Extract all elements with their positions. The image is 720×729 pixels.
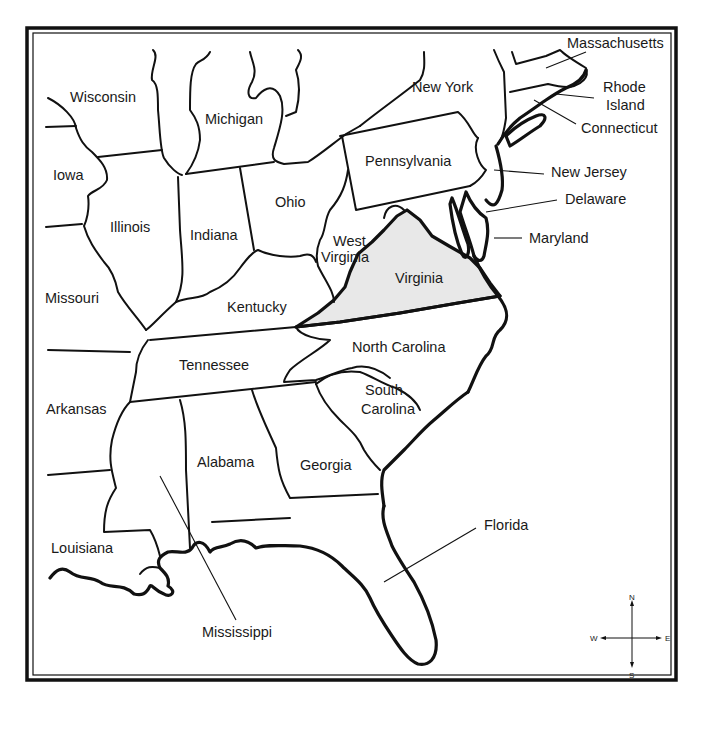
leader-connecticut: [534, 100, 576, 124]
border-pa-nj: [470, 138, 486, 186]
river-tn-ar: [130, 340, 148, 402]
border-al-ga: [252, 390, 378, 498]
state-virginia-shape[interactable]: [296, 210, 500, 327]
label-new-jersey: New Jersey: [551, 164, 627, 180]
label-new-york: New York: [412, 79, 474, 95]
label-kentucky: Kentucky: [227, 299, 287, 315]
label-illinois: Illinois: [110, 219, 150, 235]
delmarva-peninsula: [460, 192, 488, 261]
label-arkansas: Arkansas: [46, 401, 106, 417]
label-delaware: Delaware: [565, 191, 626, 207]
border-mo-ar: [48, 350, 130, 352]
border-ky-tn: [150, 327, 296, 340]
border-tn-south: [130, 382, 316, 402]
compass-east: E: [665, 634, 670, 643]
label-tennessee: Tennessee: [179, 357, 249, 373]
long-island: [506, 115, 545, 146]
label-south: South: [365, 382, 403, 398]
leader-mississippi: [160, 476, 236, 620]
border-mi-in-oh: [186, 162, 274, 174]
border-ny-vt: [494, 50, 506, 144]
coast-gulf: [50, 506, 436, 664]
label-rhode: Rhode: [603, 79, 646, 95]
river-delta: [140, 567, 160, 574]
ohio-river: [176, 250, 316, 302]
river-ky-il: [146, 302, 176, 330]
label-mississippi: Mississippi: [202, 624, 272, 640]
coast-new-jersey: [486, 146, 503, 205]
border-ms-west: [104, 402, 160, 556]
border-il-in: [176, 177, 183, 302]
label-island: Island: [606, 97, 645, 113]
border-wi-il: [98, 150, 162, 157]
label-alabama: Alabama: [197, 454, 255, 470]
saginaw-bay: [286, 50, 301, 116]
label-pennsylvania: Pennsylvania: [365, 153, 452, 169]
label-missouri: Missouri: [45, 290, 99, 306]
label-louisiana: Louisiana: [51, 540, 114, 556]
compass-north: N: [629, 593, 635, 602]
label-connecticut: Connecticut: [581, 120, 658, 136]
map-canvas: Wisconsin Michigan New York Massachusett…: [0, 0, 720, 729]
label-south-carolina: Carolina: [361, 401, 416, 417]
border-ar-la: [48, 470, 110, 475]
label-iowa: Iowa: [53, 167, 85, 183]
compass-west: W: [590, 634, 598, 643]
label-wisconsin: Wisconsin: [70, 89, 136, 105]
compass-south: S: [629, 671, 634, 680]
lake-michigan-west: [152, 50, 182, 175]
border-ms-al: [180, 400, 190, 548]
label-ohio: Ohio: [275, 194, 306, 210]
border-wi-ia: [46, 126, 76, 127]
compass-rose-icon: N S W E: [590, 593, 670, 680]
label-west-virginia: Virginia: [321, 249, 370, 265]
label-north-carolina: North Carolina: [352, 339, 446, 355]
label-massachusetts: Massachusetts: [567, 35, 664, 51]
border-ia-mo: [46, 224, 82, 227]
label-georgia: Georgia: [300, 457, 353, 473]
label-indiana: Indiana: [190, 227, 239, 243]
label-michigan: Michigan: [205, 111, 263, 127]
label-maryland: Maryland: [529, 230, 589, 246]
label-florida: Florida: [484, 517, 529, 533]
border-al-fl: [212, 518, 290, 522]
leader-rhode-island: [556, 94, 594, 98]
label-virginia: Virginia: [395, 270, 444, 286]
border-in-oh: [240, 168, 254, 250]
state-labels: Wisconsin Michigan New York Massachusett…: [45, 35, 664, 640]
label-west: West: [333, 233, 366, 249]
